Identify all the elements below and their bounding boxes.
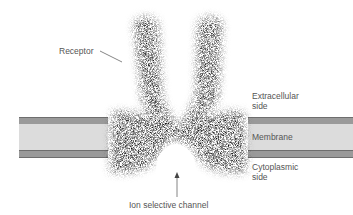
extracellular-label-line1: Extracellular xyxy=(252,91,299,101)
extracellular-label-line2: side xyxy=(252,101,299,111)
cytoplasmic-label-line2: side xyxy=(252,172,298,182)
receptor-leader-line xyxy=(100,51,122,62)
extracellular-label: Extracellular side xyxy=(252,91,299,111)
receptor-right-subunit xyxy=(176,17,222,130)
cytoplasmic-label-line1: Cytoplasmic xyxy=(252,162,298,172)
ion-channel-label: Ion selective channel xyxy=(129,200,208,210)
receptor-protein xyxy=(0,0,353,215)
receptor-left-subunit xyxy=(134,17,178,130)
membrane-label: Membrane xyxy=(252,132,293,142)
receptor-label: Receptor xyxy=(59,46,94,56)
cytoplasmic-label: Cytoplasmic side xyxy=(252,162,298,182)
ion-channel-pore xyxy=(156,144,196,196)
